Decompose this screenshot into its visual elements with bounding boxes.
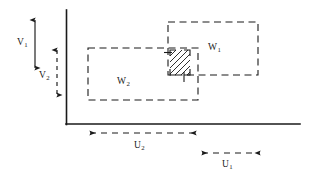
label-v1-base: V (17, 37, 24, 47)
label-v2-base: V (39, 70, 46, 80)
label-w2: W2 (117, 76, 130, 86)
overlap-fill (170, 50, 190, 75)
diagram-svg (0, 0, 320, 179)
label-w2-sub: 2 (126, 80, 130, 87)
figure-canvas: V1 V2 W1 W2 U2 U1 (0, 0, 320, 179)
label-v1-sub: 1 (24, 41, 28, 48)
label-w1: W1 (208, 42, 221, 52)
label-v2-sub: 2 (46, 74, 50, 81)
label-v1: V1 (17, 37, 27, 47)
label-w2-base: W (117, 76, 126, 86)
label-u2-sub: 2 (141, 144, 145, 151)
label-v2: V2 (39, 70, 49, 80)
label-u2-base: U (134, 140, 141, 150)
label-w1-sub: 1 (217, 46, 221, 53)
label-u1: U1 (222, 159, 232, 169)
label-u2: U2 (134, 140, 144, 150)
label-w1-base: W (208, 42, 217, 52)
label-u1-base: U (222, 159, 229, 169)
label-u1-sub: 1 (229, 163, 233, 170)
